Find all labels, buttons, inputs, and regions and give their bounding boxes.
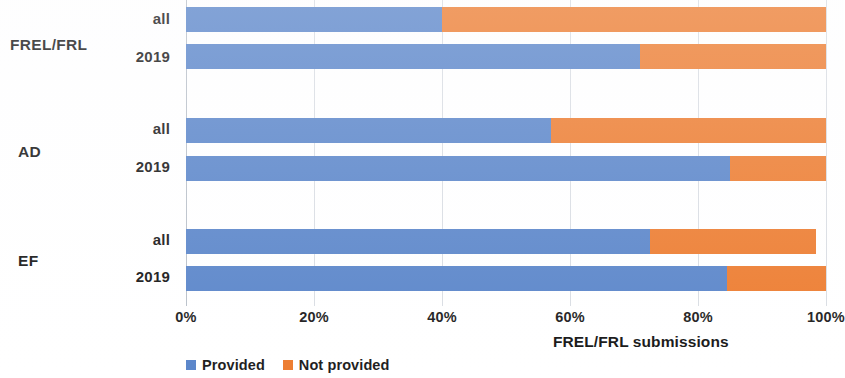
- bar-segment-frel-frl-all-not-provided[interactable]: [442, 7, 826, 32]
- chart-legend: Provided Not provided: [186, 357, 389, 373]
- bar-segment-ad-all-provided[interactable]: [186, 118, 551, 143]
- sub-label-ef-2019: 2019: [100, 268, 170, 285]
- bar-segment-frel-frl-2019-provided[interactable]: [186, 44, 640, 69]
- bar-row-ef-2019: [186, 266, 826, 291]
- group-label-ef: EF: [18, 252, 38, 270]
- legend-item-provided[interactable]: Provided: [186, 357, 265, 373]
- bar-segment-ef-all-not-provided[interactable]: [650, 229, 816, 254]
- legend-swatch-provided-icon: [186, 360, 196, 370]
- x-tick-label-60pct: 60%: [555, 309, 585, 325]
- bar-row-frel-frl-2019: [186, 44, 826, 69]
- bar-segment-frel-frl-all-provided[interactable]: [186, 7, 442, 32]
- bar-row-ef-all: [186, 229, 816, 254]
- sub-label-ad-all: all: [100, 120, 170, 137]
- bar-segment-ad-2019-provided[interactable]: [186, 156, 730, 181]
- group-label-frel-frl: FREL/FRL: [10, 36, 87, 54]
- gridline-100pct: [826, 0, 827, 306]
- x-tick-label-40pct: 40%: [427, 309, 457, 325]
- x-tick-label-0pct: 0%: [175, 309, 196, 325]
- x-tick-label-80pct: 80%: [683, 309, 713, 325]
- legend-label-provided: Provided: [202, 357, 265, 373]
- bar-row-ad-all: [186, 118, 826, 143]
- legend-swatch-not-provided-icon: [283, 360, 293, 370]
- sub-label-ef-all: all: [100, 231, 170, 248]
- x-tick-label-100pct: 100%: [807, 309, 845, 325]
- plot-area: [186, 0, 826, 306]
- bar-row-frel-frl-all: [186, 7, 826, 32]
- bar-segment-ef-all-provided[interactable]: [186, 229, 650, 254]
- group-label-ad: AD: [18, 143, 41, 161]
- sub-label-frel-frl-2019: 2019: [100, 48, 170, 65]
- sub-label-frel-frl-all: all: [100, 10, 170, 27]
- legend-item-not-provided[interactable]: Not provided: [283, 357, 390, 373]
- bar-segment-frel-frl-2019-not-provided[interactable]: [640, 44, 826, 69]
- bar-segment-ef-2019-not-provided[interactable]: [727, 266, 826, 291]
- bar-segment-ad-all-not-provided[interactable]: [551, 118, 826, 143]
- bar-segment-ef-2019-provided[interactable]: [186, 266, 727, 291]
- x-tick-label-20pct: 20%: [299, 309, 329, 325]
- sub-label-ad-2019: 2019: [100, 158, 170, 175]
- legend-label-not-provided: Not provided: [299, 357, 390, 373]
- x-axis-title: FREL/FRL submissions: [553, 333, 729, 351]
- bar-segment-ad-2019-not-provided[interactable]: [730, 156, 826, 181]
- bar-row-ad-2019: [186, 156, 826, 181]
